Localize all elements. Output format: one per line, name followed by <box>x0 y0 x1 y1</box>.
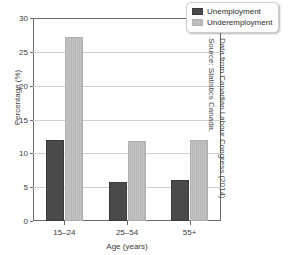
y-tick-label: 10 <box>19 149 28 158</box>
chart-legend: Unemployment Underemployment <box>186 2 279 33</box>
x-tick-mark <box>190 221 191 225</box>
legend-item-label: Unemployment <box>207 7 261 16</box>
bar <box>128 141 146 221</box>
y-tick-label: 20 <box>19 81 28 90</box>
bar <box>171 180 189 221</box>
bar-chart-figure: Percentage (%) 051015202530 15–2425–5455… <box>0 0 288 255</box>
source-note-line-1: Data from Canadian Labour Congress (2014… <box>217 38 228 220</box>
x-tick-mark <box>64 221 65 225</box>
y-axis-title: Percentage (%) <box>13 48 22 148</box>
bar <box>46 140 64 221</box>
x-tick-label: 15–24 <box>53 228 75 237</box>
y-tick-label: 0 <box>24 217 28 226</box>
y-tick-label: 30 <box>19 14 28 23</box>
legend-item-label: Underemployment <box>207 18 272 27</box>
source-note: Data from Canadian Labour Congress (2014… <box>202 38 228 220</box>
y-tick-mark <box>30 221 33 222</box>
bars-layer <box>33 18 221 221</box>
plot-area: 051015202530 15–2425–5455+ <box>33 18 221 221</box>
y-tick-label: 5 <box>24 183 28 192</box>
x-axis-title: Age (years) <box>33 242 221 251</box>
x-tick-label: 55+ <box>183 228 197 237</box>
legend-swatch-icon <box>192 8 203 15</box>
legend-item-underemployment: Underemployment <box>192 17 272 28</box>
legend-item-unemployment: Unemployment <box>192 6 272 17</box>
legend-swatch-icon <box>192 19 203 26</box>
x-tick-label: 25–54 <box>116 228 138 237</box>
y-tick-label: 15 <box>19 115 28 124</box>
source-note-line-2: Source: Statistics Canada. <box>206 38 217 220</box>
bar <box>109 182 127 221</box>
y-tick-label: 25 <box>19 47 28 56</box>
bar <box>65 37 83 221</box>
x-tick-mark <box>127 221 128 225</box>
